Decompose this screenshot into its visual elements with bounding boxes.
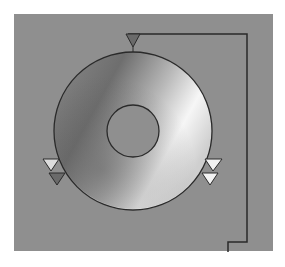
- right-marker-lower-icon: [202, 173, 218, 185]
- right-marker-upper-icon: [205, 159, 222, 171]
- disc-hub-hole: [107, 105, 159, 157]
- left-marker-upper-icon: [43, 159, 59, 171]
- top-marker-icon: [126, 34, 140, 47]
- disc-diagram: [0, 0, 285, 267]
- left-marker-lower-icon: [49, 173, 65, 185]
